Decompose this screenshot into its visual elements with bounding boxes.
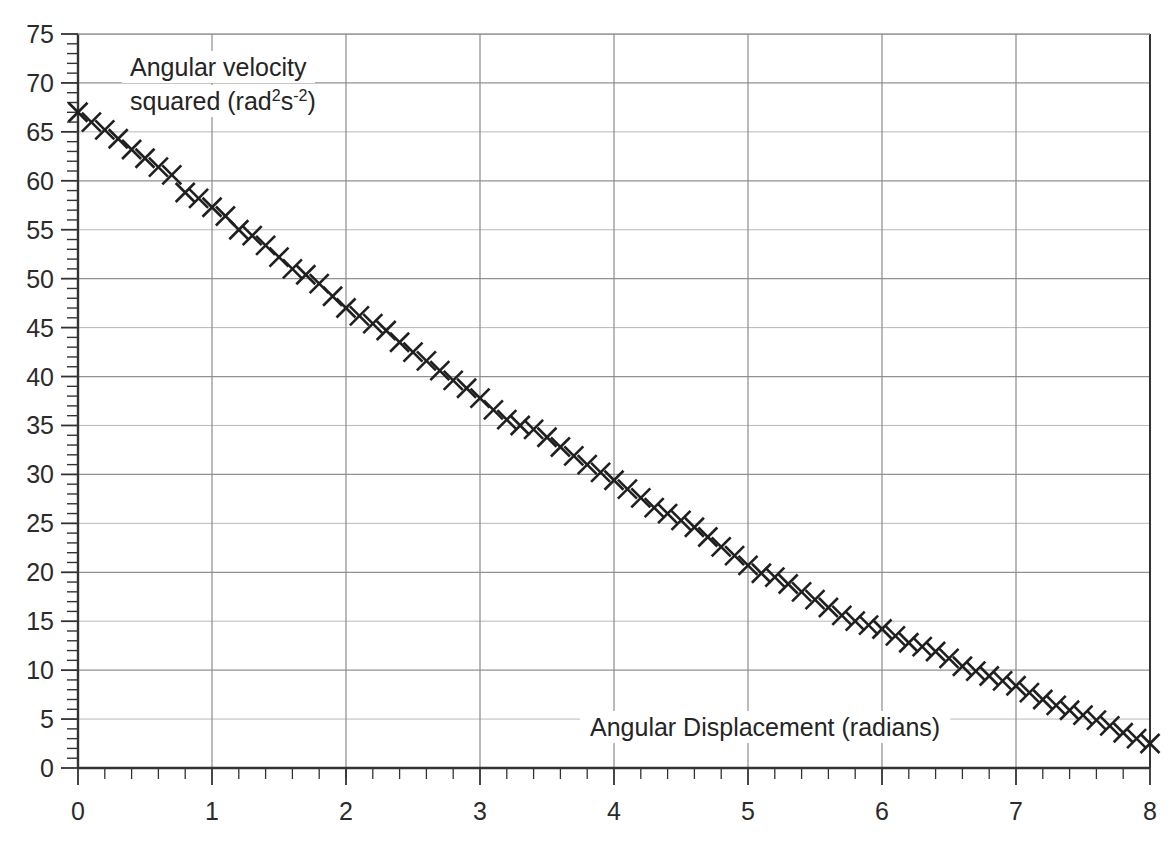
y-axis-tick-label: 0: [40, 754, 54, 782]
y-axis-tick-label: 55: [26, 216, 54, 244]
y-axis-title-part: s: [281, 87, 294, 115]
y-axis-title-part: 2: [272, 87, 281, 104]
y-axis-tick-label: 50: [26, 265, 54, 293]
x-axis-tick-label: 2: [339, 797, 353, 825]
y-axis-tick-label: 70: [26, 69, 54, 97]
x-axis-tick-label: 3: [473, 797, 487, 825]
y-axis-tick-label: 25: [26, 509, 54, 537]
y-axis-tick-label: 75: [26, 20, 54, 48]
y-axis-tick-label: 20: [26, 558, 54, 586]
x-axis-tick-label: 5: [741, 797, 755, 825]
y-axis-title-part: ): [307, 87, 315, 115]
scatter-plot: 051015202530354045505560657075 012345678…: [0, 0, 1173, 846]
y-axis-tick-label: 30: [26, 460, 54, 488]
y-axis-tick-label: 10: [26, 656, 54, 684]
y-axis-tick-label: 5: [40, 705, 54, 733]
x-axis-title: Angular Displacement (radians): [590, 713, 940, 741]
y-axis-title-line2: squared (rad2s-2): [130, 87, 316, 115]
y-axis-title-part: -2: [293, 87, 307, 104]
x-axis-tick-label: 7: [1009, 797, 1023, 825]
y-axis-title-line1: Angular velocity: [130, 53, 307, 81]
y-axis-tick-label: 40: [26, 363, 54, 391]
x-axis-tick-label: 6: [875, 797, 889, 825]
y-axis-title-part: squared (rad: [130, 87, 272, 115]
x-axis-tick-label: 0: [71, 797, 85, 825]
y-axis-tick-label: 45: [26, 314, 54, 342]
y-axis-tick-label: 60: [26, 167, 54, 195]
x-axis-tick-label: 8: [1143, 797, 1157, 825]
y-axis-tick-label: 35: [26, 411, 54, 439]
x-axis-tick-label: 4: [607, 797, 621, 825]
x-axis-tick-label: 1: [205, 797, 219, 825]
y-axis-tick-label: 65: [26, 118, 54, 146]
y-axis-tick-label: 15: [26, 607, 54, 635]
chart-figure: 051015202530354045505560657075 012345678…: [0, 0, 1173, 846]
